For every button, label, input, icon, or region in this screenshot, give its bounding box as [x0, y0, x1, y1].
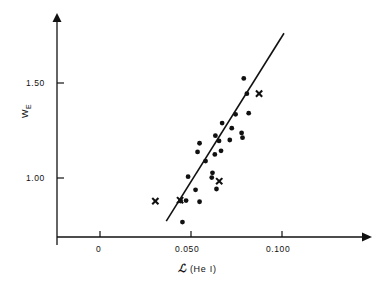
data-point-cross [216, 178, 222, 184]
data-point-circle [240, 135, 245, 140]
data-point-circle [239, 131, 244, 136]
y-axis-title-subscript: E [25, 104, 32, 109]
x-axis-title: ℒ (He I) [178, 262, 217, 275]
y-axis-arrowhead [53, 13, 62, 22]
data-point-circle [195, 150, 200, 155]
scatter-plot-figure: 1.50 1.00 0 0.050 0.100 ℒ (He I) WE [0, 0, 387, 283]
data-point-circle [180, 220, 185, 225]
data-points-layer [152, 76, 262, 224]
regression-line-segment [166, 33, 284, 221]
data-point-circle [233, 112, 238, 117]
y-tick-label-150: 1.50 [26, 78, 45, 88]
data-point-circle [229, 126, 234, 131]
x-tick-label-0050: 0.050 [175, 244, 199, 254]
data-point-circle [220, 121, 225, 126]
data-point-circle [197, 141, 202, 146]
x-axis-group [57, 231, 372, 242]
data-point-circle [184, 198, 189, 203]
data-point-circle [246, 111, 251, 116]
data-point-circle [209, 175, 214, 180]
data-point-circle [219, 148, 224, 153]
data-point-circle [244, 91, 249, 96]
data-point-circle [241, 76, 246, 81]
data-point-cross [152, 198, 158, 204]
data-point-circle [186, 174, 191, 179]
data-point-circle [213, 133, 218, 138]
data-point-cross [256, 91, 262, 97]
plot-canvas [0, 0, 387, 283]
x-tick-label-0100: 0.100 [266, 244, 290, 254]
x-axis-title-symbol: ℒ [178, 262, 187, 274]
data-point-circle [214, 187, 219, 192]
y-axis-title-main: W [20, 109, 30, 118]
data-point-circle [227, 138, 232, 143]
data-point-circle [203, 159, 208, 164]
data-point-circle [197, 199, 202, 204]
data-point-circle [217, 139, 222, 144]
x-tick-label-0: 0 [96, 244, 101, 254]
y-axis-title: WE [20, 104, 32, 118]
y-axis-group [53, 13, 65, 245]
y-tick-label-100: 1.00 [26, 173, 45, 183]
data-point-circle [212, 152, 217, 157]
data-point-circle [210, 170, 215, 175]
data-point-circle [193, 187, 198, 192]
x-axis-title-rest: (He I) [187, 264, 217, 274]
regression-line [166, 33, 284, 221]
x-axis-arrowhead [362, 233, 372, 242]
